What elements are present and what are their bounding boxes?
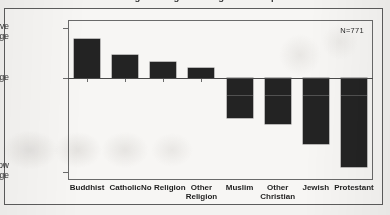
figure-page: Average Ratings of Religious Groups Abov… (0, 0, 390, 215)
bar-series (68, 20, 373, 180)
y-axis-label-below-average: Below Average (0, 161, 9, 180)
figure-title-cropped: Average Ratings of Religious Groups (0, 0, 390, 7)
bar-other-religion (188, 68, 214, 78)
bar-muslim (227, 78, 253, 118)
bar-other-christian (265, 78, 291, 124)
bar-buddhist (74, 39, 100, 78)
y-axis-label-average: Average (0, 73, 9, 83)
bar-catholic (112, 55, 138, 78)
zero-reference-line (68, 78, 373, 79)
bar-protestant (341, 78, 367, 167)
bar-jewish (303, 78, 329, 144)
x-label-7: Protestant (322, 183, 386, 192)
figure-title-text: Average Ratings of Religious Groups (107, 0, 282, 2)
y-axis-label-above-average: Above Average (0, 22, 9, 41)
bar-no-religion (150, 62, 176, 78)
